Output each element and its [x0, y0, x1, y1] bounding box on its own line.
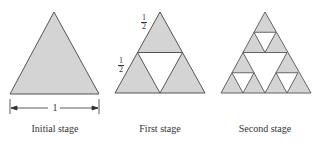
caption-second-stage: Second stage [215, 123, 315, 134]
fraction-numerator: 1 [119, 56, 123, 65]
dimension-label-length: 1 [50, 102, 60, 113]
fraction-numerator: 1 [142, 13, 146, 22]
initial-stage-triangle [10, 12, 99, 94]
side-label-lower-fraction: 1 2 [117, 57, 125, 74]
caption-initial-stage: Initial stage [5, 123, 105, 134]
side-label-upper-fraction: 1 2 [140, 14, 148, 31]
second-stage-triangle [221, 12, 311, 93]
first-stage-triangle [115, 12, 205, 93]
fraction-denominator: 2 [142, 22, 146, 31]
fraction-denominator: 2 [119, 65, 123, 74]
caption-first-stage: First stage [110, 123, 210, 134]
